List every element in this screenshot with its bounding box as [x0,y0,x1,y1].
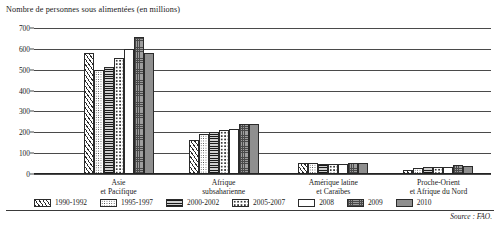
legend-item[interactable]: 2008 [298,198,347,207]
bar-group: Proche-Orientet Afrique du Nord [395,28,482,174]
gridline [34,174,491,175]
y-axis-tick-label: 0 [26,170,30,179]
bar-group: Amérique latineet Caraïbes [290,28,377,174]
legend-label: 1990-1992 [55,198,87,207]
legend-label: 1995-1997 [121,198,153,207]
y-axis-tick-label: 500 [19,65,30,74]
legend-label: 2000-2002 [187,198,219,207]
bar[interactable] [219,130,229,174]
legend-label: 2005-2007 [253,198,285,207]
chart-title: Nombre de personnes sous alimentées (en … [6,5,180,14]
bar-group: Afriquesubsaharienne [180,28,267,174]
legend-item[interactable]: 1990-1992 [34,198,100,207]
bar[interactable] [239,124,249,174]
source-note: Source : FAO. [450,212,492,221]
bar[interactable] [229,129,239,174]
bar[interactable] [144,53,154,174]
chart-container: Nombre de personnes sous alimentées (en … [0,0,500,227]
legend-swatch [232,199,249,207]
bar-group: Asieet Pacifique [75,28,162,174]
bar[interactable] [114,58,124,174]
legend-label: 2008 [319,198,334,207]
footer-divider [6,210,494,211]
legend-item[interactable]: 2010 [396,198,445,207]
legend-swatch [347,199,364,207]
bar[interactable] [84,53,94,174]
y-axis-tick-label: 100 [19,149,30,158]
x-axis-category-label: Proche-Orientet Afrique du Nord [410,178,468,197]
y-axis-tick-label: 600 [19,44,30,53]
bar[interactable] [189,140,199,174]
bar[interactable] [104,67,114,174]
bar[interactable] [249,124,259,174]
bar[interactable] [124,49,134,174]
x-axis-category-label: Afriquesubsaharienne [202,178,245,197]
legend-swatch [34,199,51,207]
y-axis-tick-label: 700 [19,24,30,33]
legend-label: 2010 [417,198,432,207]
x-axis-category-label: Asieet Pacifique [101,178,137,197]
bar[interactable] [209,132,219,174]
x-axis-baseline [34,173,491,174]
bar[interactable] [199,134,209,174]
legend-swatch [166,199,183,207]
plot-area: 0100200300400500600700 Asieet PacifiqueA… [34,28,491,174]
legend-swatch [298,199,315,207]
y-axis-tick-label: 200 [19,128,30,137]
y-axis-tick-label: 400 [19,86,30,95]
legend-swatch [100,199,117,207]
chart-legend: 1990-19921995-19972000-20022005-20072008… [34,196,494,209]
x-axis-category-label: Amérique latineet Caraïbes [309,178,358,197]
bar[interactable] [134,37,144,174]
legend-swatch [396,199,413,207]
legend-label: 2009 [368,198,383,207]
legend-item[interactable]: 2000-2002 [166,198,232,207]
bar-groups: Asieet PacifiqueAfriquesubsaharienneAmér… [34,28,491,174]
legend-item[interactable]: 1995-1997 [100,198,166,207]
legend-item[interactable]: 2005-2007 [232,198,298,207]
bar[interactable] [94,70,104,174]
legend-item[interactable]: 2009 [347,198,396,207]
y-axis-tick-label: 300 [19,107,30,116]
